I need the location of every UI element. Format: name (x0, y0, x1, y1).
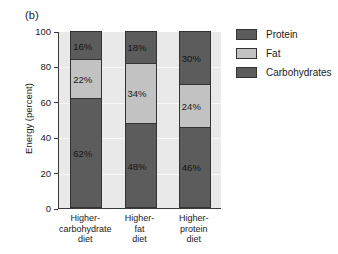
bar-segment-fat: 34% (125, 63, 157, 123)
legend-item[interactable]: Fat (236, 48, 332, 59)
y-axis-tick-label: 60 (40, 97, 51, 108)
legend-label: Fat (266, 48, 280, 59)
bar-segment-protein: 18% (125, 31, 157, 63)
bar-segment-protein: 30% (179, 31, 211, 84)
bar-segment-fat: 22% (70, 59, 102, 98)
legend-item[interactable]: Protein (236, 29, 332, 40)
bar-segment-label: 30% (182, 53, 201, 64)
bar-segment-carbohydrates: 46% (179, 127, 211, 208)
stacked-bar: 16%22%62% (70, 31, 102, 208)
legend-label: Protein (266, 29, 298, 40)
bar-segment-label: 16% (73, 40, 92, 51)
y-axis-title: Energy (percent) (23, 39, 34, 199)
legend: ProteinFatCarbohydrates (236, 29, 332, 86)
y-axis-tick-label: 80 (40, 61, 51, 72)
legend-item[interactable]: Carbohydrates (236, 67, 332, 78)
bar-segment-label: 46% (182, 162, 201, 173)
bar-segment-carbohydrates: 62% (70, 98, 102, 208)
legend-swatch-icon (236, 67, 257, 78)
y-axis-tick-label: 20 (40, 168, 51, 179)
plot-area: 16%22%62%18%34%48%30%24%46% (58, 32, 221, 209)
bar-segment-label: 62% (73, 148, 92, 159)
bar-segment-protein: 16% (70, 31, 102, 59)
bar-segment-label: 24% (182, 100, 201, 111)
panel-label: (b) (25, 9, 39, 21)
bar-segment-label: 34% (128, 88, 147, 99)
x-axis-label-line: diet (156, 234, 232, 245)
x-axis-label-line: protein (156, 224, 232, 235)
legend-label: Carbohydrates (266, 67, 332, 78)
bar-segment-label: 18% (128, 42, 147, 53)
y-axis-tick-label: 100 (35, 26, 51, 37)
y-axis-tick-label: 40 (40, 132, 51, 143)
x-axis-label: Higher-proteindiet (156, 213, 232, 245)
figure-panel: (b) Energy (percent) 020406080100 16%22%… (0, 0, 338, 254)
legend-swatch-icon (236, 29, 257, 40)
bar-segment-carbohydrates: 48% (125, 123, 157, 208)
stacked-bar: 30%24%46% (179, 31, 211, 208)
bar-segment-label: 48% (128, 160, 147, 171)
legend-swatch-icon (236, 48, 257, 59)
bar-segment-label: 22% (73, 74, 92, 85)
bar-segment-fat: 24% (179, 84, 211, 126)
x-axis-label-line: Higher- (156, 213, 232, 224)
stacked-bar: 18%34%48% (125, 31, 157, 208)
